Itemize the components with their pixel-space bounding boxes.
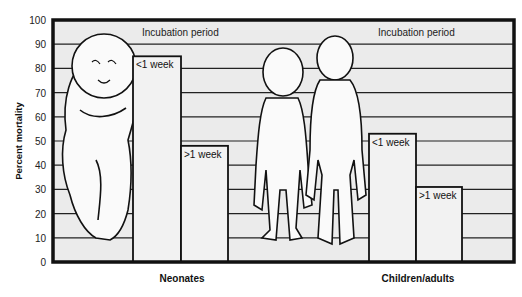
y-axis-ticks: 0102030405060708090100 [29,15,46,268]
y-axis-label: Percent mortality [13,101,24,179]
y-tick-label: 100 [29,15,46,26]
y-tick-label: 50 [35,136,47,147]
incubation-annotation-right: Incubation period [378,27,455,38]
y-tick-label: 0 [40,257,46,268]
bar-label: >1 week [419,190,458,201]
mortality-bar-chart: <1 week >1 week <1 week >1 week Incubati… [0,0,522,297]
y-tick-label: 70 [35,88,47,99]
incubation-annotation-left: Incubation period [142,27,219,38]
bar-label: <1 week [372,137,411,148]
group-label-children-adults: Children/adults [382,273,455,284]
group-label-neonates: Neonates [159,273,204,284]
bar-label: >1 week [184,149,223,160]
bar-label: <1 week [136,59,175,70]
infant-figure [63,34,139,240]
y-tick-label: 80 [35,63,47,74]
y-tick-label: 10 [35,233,47,244]
y-tick-label: 60 [35,112,47,123]
y-tick-label: 30 [35,184,47,195]
bar-neonates-lt1wk [133,56,181,262]
y-tick-label: 40 [35,160,47,171]
y-tick-label: 90 [35,39,47,50]
y-tick-label: 20 [35,209,47,220]
bar-neonates-gt1wk [181,146,228,262]
bar-children-lt1wk [369,134,416,262]
